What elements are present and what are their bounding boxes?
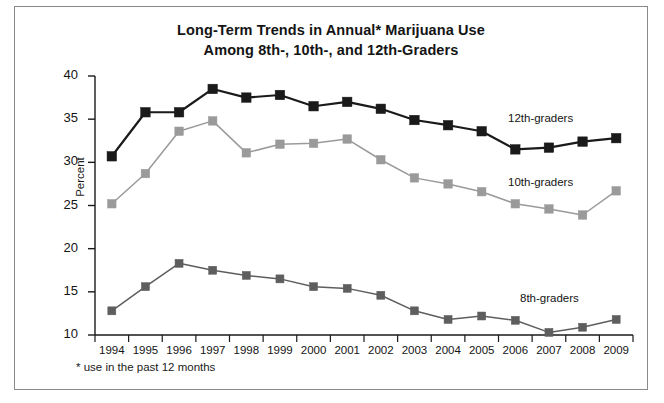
- data-point-12th-graders: [242, 93, 252, 103]
- data-point-10th-graders: [545, 205, 554, 214]
- data-point-10th-graders: [309, 139, 318, 148]
- data-point-8th-graders: [175, 259, 183, 267]
- data-point-8th-graders: [108, 307, 116, 315]
- data-point-12th-graders: [107, 152, 117, 162]
- data-point-12th-graders: [309, 101, 319, 111]
- data-point-12th-graders: [511, 145, 521, 155]
- data-point-12th-graders: [410, 115, 420, 125]
- data-point-10th-graders: [477, 187, 486, 196]
- series-label-10th-graders: 10th-graders: [508, 176, 573, 188]
- data-point-12th-graders: [578, 137, 588, 147]
- data-point-10th-graders: [343, 135, 352, 144]
- series-label-12th-graders: 12th-graders: [508, 112, 573, 124]
- y-tick-label: 20: [48, 240, 78, 255]
- data-point-8th-graders: [478, 312, 486, 320]
- data-point-8th-graders: [242, 271, 250, 279]
- data-point-10th-graders: [612, 187, 621, 196]
- data-point-10th-graders: [410, 174, 419, 183]
- data-point-12th-graders: [141, 108, 151, 118]
- data-point-8th-graders: [276, 275, 284, 283]
- data-point-8th-graders: [410, 307, 418, 315]
- data-point-12th-graders: [477, 127, 487, 136]
- chart-canvas: [0, 0, 664, 403]
- chart-figure: Long-Term Trends in Annual* Marijuana Us…: [0, 0, 664, 403]
- data-point-12th-graders: [342, 97, 352, 107]
- data-point-12th-graders: [275, 90, 285, 100]
- data-point-10th-graders: [578, 211, 587, 220]
- y-tick-label: 10: [48, 326, 78, 341]
- data-point-10th-graders: [175, 127, 184, 135]
- y-tick-label: 30: [48, 153, 78, 168]
- series-line-10th-graders: [112, 121, 616, 215]
- data-point-8th-graders: [545, 328, 553, 336]
- data-point-10th-graders: [208, 117, 217, 126]
- data-point-12th-graders: [174, 108, 184, 118]
- data-point-8th-graders: [209, 266, 217, 274]
- data-point-10th-graders: [276, 140, 285, 149]
- data-point-12th-graders: [611, 133, 621, 143]
- chart-footnote: * use in the past 12 months: [76, 361, 215, 373]
- data-point-8th-graders: [612, 315, 620, 323]
- series-label-8th-graders: 8th-graders: [520, 292, 579, 304]
- y-tick-label: 15: [48, 283, 78, 298]
- data-point-8th-graders: [343, 284, 351, 292]
- data-point-10th-graders: [242, 149, 251, 158]
- data-point-8th-graders: [141, 283, 149, 291]
- data-point-10th-graders: [108, 200, 117, 209]
- data-point-10th-graders: [141, 169, 150, 178]
- data-point-12th-graders: [443, 120, 453, 129]
- data-point-12th-graders: [376, 104, 386, 114]
- data-point-10th-graders: [444, 180, 453, 189]
- data-point-8th-graders: [377, 291, 385, 299]
- data-point-12th-graders: [208, 84, 218, 94]
- x-tick-label: 2009: [594, 344, 638, 356]
- data-point-8th-graders: [511, 316, 519, 324]
- y-tick-label: 40: [48, 67, 78, 82]
- y-tick-label: 35: [48, 110, 78, 125]
- data-point-12th-graders: [544, 143, 554, 153]
- data-point-10th-graders: [511, 200, 520, 209]
- data-point-8th-graders: [310, 283, 318, 291]
- data-point-8th-graders: [579, 323, 587, 331]
- y-tick-label: 25: [48, 197, 78, 212]
- data-point-8th-graders: [444, 315, 452, 323]
- data-point-10th-graders: [377, 155, 386, 164]
